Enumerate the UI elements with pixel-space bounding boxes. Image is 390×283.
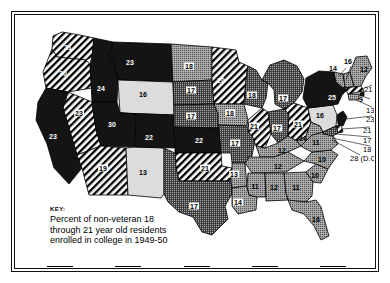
legend-item-19-21: 19-21%: [115, 266, 172, 267]
state-michigan: [262, 60, 304, 109]
state-minnesota: [212, 47, 248, 104]
map-label-west-virginia: 14: [299, 135, 307, 142]
state-new-jersey: [337, 111, 347, 126]
legend-label-22-30: 22-30%: [76, 266, 104, 267]
map-label-ohio: 21: [293, 121, 303, 128]
map-label-new-york: 25: [328, 94, 336, 101]
key-line-3: enrolled in college in 1949-50: [50, 235, 235, 246]
callout-massachusetts: 21: [364, 86, 372, 94]
legend-swatch-mid-stipple-icon: [252, 266, 278, 267]
key-line-1: Percent of non-veteran 18: [50, 214, 235, 225]
map-label-michigan: 17: [278, 95, 288, 102]
state-wisconsin: [244, 66, 268, 108]
legend-label-19-21: 19-21%: [144, 266, 172, 267]
map-label-kentucky: 12: [278, 147, 286, 154]
map-label-arkansas: 13: [229, 171, 239, 178]
map-label-indiana: 17: [272, 125, 282, 132]
legend-swatch-solid-black-icon: [47, 266, 73, 267]
map-label-louisiana: 14: [233, 199, 243, 206]
callout-delaware: 21: [363, 127, 371, 135]
map-label-pennsylvania: 16: [316, 112, 324, 119]
state-connecticut: [348, 94, 359, 100]
map-label-tennessee: 12: [274, 163, 282, 170]
map-label-north-dakota: 18: [184, 63, 194, 70]
map-label-oklahoma: 21: [200, 165, 210, 172]
map-label-arizona: 19: [98, 165, 108, 172]
map-frame: 2120232324231630191322181717222117201817…: [11, 11, 379, 272]
map-label-idaho: 24: [97, 85, 105, 92]
callout-maryland: 17: [363, 137, 371, 145]
legend-item-17-18: 17-18%: [184, 266, 241, 267]
callout-virginia-callout: 18: [363, 146, 371, 154]
map-label-utah: 30: [108, 121, 116, 128]
map-label-illinois: 21: [249, 123, 259, 130]
callout-connecticut: 13: [366, 107, 374, 115]
key-title: KEY:: [50, 206, 235, 212]
map-label-new-mexico: 13: [139, 169, 147, 176]
state-washington: [52, 32, 94, 60]
state-wyoming: [118, 80, 174, 115]
map-label-wisconsin: 18: [247, 92, 257, 99]
state-montana: [109, 42, 173, 82]
map-label-vermont: 14: [329, 65, 337, 72]
map-label-maine: 12: [360, 66, 368, 73]
legend-item-12-16: 12-16%: [252, 266, 309, 267]
figure-page: 2120232324231630191322181717222117201817…: [0, 0, 390, 283]
map-label-south-dakota: 17: [186, 87, 196, 94]
map-label-nebraska: 17: [186, 113, 196, 120]
map-label-north-carolina: 10: [318, 156, 326, 163]
key-block: KEY: Percent of non-veteran 18 through 2…: [50, 206, 235, 246]
map-label-georgia: 11: [292, 184, 299, 191]
map-label-florida: 16: [312, 216, 320, 223]
legend-label-10-11: 10-11%: [349, 266, 374, 267]
map-label-kansas: 22: [195, 137, 203, 144]
map-label-oregon: 20: [59, 70, 67, 77]
legend: 22-30% 19-21% 17-18% 12-16% 10-11%: [47, 264, 374, 267]
map-label-iowa: 18: [225, 110, 235, 117]
map-label-montana: 23: [126, 59, 134, 66]
state-nebraska: [174, 104, 219, 128]
legend-item-22-30: 22-30%: [47, 266, 104, 267]
map-label-wyoming: 16: [139, 91, 147, 98]
map-label-new-hampshire: 16: [344, 58, 352, 65]
map-label-rhode-island-mark: 9: [359, 96, 363, 103]
map-label-minnesota: 20: [217, 77, 225, 84]
map-label-california: 23: [49, 133, 57, 140]
state-florida: [288, 200, 329, 240]
legend-label-12-16: 12-16%: [281, 266, 309, 267]
legend-item-10-11: 10-11%: [320, 266, 374, 267]
map-label-missouri: 17: [230, 140, 240, 147]
map-label-nevada: 23: [74, 110, 84, 117]
map-canvas: 2120232324231630191322181717222117201817…: [16, 16, 374, 267]
legend-swatch-dark-stipple-icon: [184, 266, 210, 267]
callout-new-jersey: 23: [366, 116, 374, 124]
legend-label-17-18: 17-18%: [213, 266, 241, 267]
map-label-colorado: 22: [145, 134, 153, 141]
map-label-mississippi: 11: [251, 183, 258, 190]
legend-swatch-light-gray-icon: [320, 266, 346, 267]
map-label-virginia: 11: [312, 139, 319, 146]
map-label-south-carolina: 10: [311, 172, 319, 179]
map-label-washington: 21: [64, 44, 72, 51]
legend-swatch-diagonal-hatch-icon: [115, 266, 141, 267]
map-label-alabama: 12: [270, 184, 278, 191]
key-line-2: through 21 year old residents: [50, 225, 235, 236]
callout-district-of-columbia: 28 (D.C.): [350, 155, 374, 163]
